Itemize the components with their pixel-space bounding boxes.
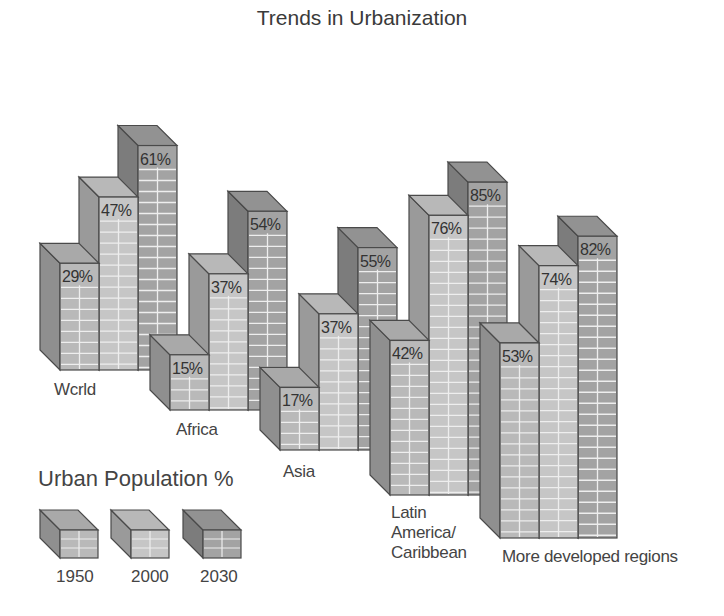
value-label: 15% — [172, 360, 203, 377]
legend-swatch-2000 — [111, 510, 169, 558]
value-label: 53% — [502, 348, 533, 365]
legend-label-2030: 2030 — [200, 567, 238, 587]
value-label: 76% — [431, 220, 462, 237]
bar-1950: 17% — [260, 367, 319, 450]
value-label: 55% — [360, 253, 391, 270]
legend-swatch-1950 — [40, 510, 98, 558]
legend-label-1950: 1950 — [56, 567, 94, 587]
category-label-africa: Africa — [176, 420, 218, 440]
value-label: 85% — [470, 187, 501, 204]
value-label: 82% — [580, 241, 611, 258]
bar-chart-3d: 61%47%29%54%37%15%55%37%17%85%76%42%82%7… — [0, 0, 724, 616]
legend-label-2000: 2000 — [131, 567, 169, 587]
value-label: 37% — [321, 319, 352, 336]
category-label-developed: More developed regions — [502, 547, 678, 567]
value-label: 61% — [140, 151, 171, 168]
legend-title: Urban Population % — [38, 466, 234, 492]
value-label: 17% — [282, 392, 313, 409]
value-label: 74% — [541, 271, 572, 288]
value-label: 29% — [62, 268, 93, 285]
value-label: 42% — [392, 345, 423, 362]
category-label-latam-line3: Caribbean — [391, 543, 467, 563]
bar-group-0: 61%47%29% — [40, 126, 177, 370]
category-label-asia: Asia — [283, 462, 315, 482]
category-label-latin-america: Latin America/ Caribbean — [391, 503, 467, 563]
legend-swatch-2030 — [183, 510, 241, 558]
value-label: 37% — [211, 279, 242, 296]
category-label-latam-line1: Latin — [391, 503, 467, 523]
category-label-latam-line2: America/ — [391, 523, 467, 543]
bar-1950: 15% — [150, 335, 209, 410]
value-label: 47% — [101, 202, 132, 219]
bar-1950: 42% — [370, 320, 429, 495]
bar-1950: 53% — [480, 323, 539, 538]
value-label: 54% — [250, 216, 281, 233]
bar-1950: 29% — [40, 243, 99, 370]
category-label-world: Wcrld — [54, 380, 96, 400]
